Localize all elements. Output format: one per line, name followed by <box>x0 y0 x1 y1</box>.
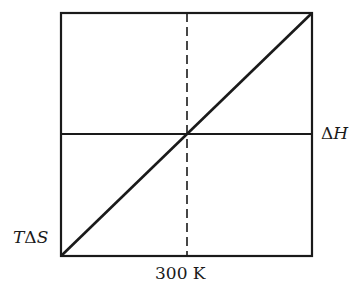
entropy-enthalpy-diagram <box>0 0 359 295</box>
delta-symbol: Δ <box>24 227 36 247</box>
t-delta-s-label: TΔS <box>13 229 48 246</box>
temperature-label: 300 K <box>155 265 206 282</box>
t-symbol: T <box>13 227 24 247</box>
s-symbol: S <box>37 227 49 247</box>
delta-symbol: Δ <box>321 123 333 143</box>
h-symbol: H <box>333 123 348 143</box>
delta-h-label: ΔH <box>321 125 348 142</box>
